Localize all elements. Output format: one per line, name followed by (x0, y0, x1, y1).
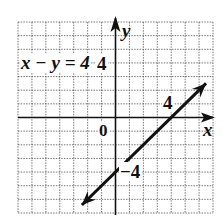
x-tick-label-4: 4 (162, 93, 174, 112)
y-tick-label-neg4: −4 (119, 162, 141, 181)
x-axis-label: x (203, 120, 213, 139)
coordinate-plane (0, 0, 223, 217)
y-tick-label-4: 4 (96, 54, 108, 73)
y-axis-label: y (122, 21, 130, 40)
equation-text: x − y = 4 (21, 52, 90, 73)
origin-label: 0 (98, 122, 109, 139)
line-x-minus-y-equals-4 (82, 83, 206, 205)
equation-label: x − y = 4 (20, 53, 91, 72)
